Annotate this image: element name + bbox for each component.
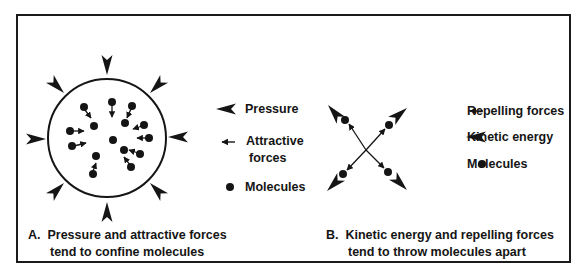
molecule-dot-icon: [145, 134, 153, 142]
legend-repelling-label: Repelling forces: [467, 104, 564, 119]
pressure-arrow-icon: [26, 134, 46, 145]
legend-molecule-dot-icon: [226, 183, 234, 191]
pressure-arrow-icon: [102, 202, 113, 222]
caption-a: A. Pressure and attractive forces tend t…: [28, 227, 227, 261]
molecules-repelled: [339, 116, 393, 178]
pressure-arrow-icon: [146, 75, 168, 97]
molecule-dot-icon: [121, 119, 129, 127]
caption-a-line1: Pressure and attractive forces: [47, 228, 226, 242]
legend-molecules-label: Molecules: [245, 180, 305, 195]
legend-attractive-label-line2: forces: [249, 151, 287, 166]
molecule-dot-icon: [80, 103, 88, 111]
molecule-dot-icon: [136, 150, 144, 158]
molecule-dot-icon: [109, 136, 117, 144]
molecule-dot-icon: [92, 152, 100, 160]
kinetic-energy-arrow-icon: [389, 172, 411, 194]
caption-b-letter: B.: [326, 228, 339, 242]
legend-attractive-label-line1: Attractive: [246, 134, 304, 149]
caption-b-line1: Kinetic energy and repelling forces: [345, 228, 553, 242]
pressure-arrow-icon: [168, 132, 188, 143]
molecule-dot-icon: [127, 163, 135, 171]
caption-b: B. Kinetic energy and repelling forces t…: [326, 227, 554, 261]
pressure-arrow-icon: [46, 75, 68, 97]
molecule-dot-icon: [108, 98, 116, 106]
molecule-dot-icon: [384, 168, 392, 176]
legend-molecules-label-b: Molecules: [467, 157, 527, 172]
caption-b-line2: tend to throw molecules apart: [326, 244, 554, 261]
pressure-arrow-icon: [46, 179, 68, 201]
repelling-force-arrows: [347, 124, 385, 170]
molecule-dot-icon: [128, 102, 136, 110]
molecule-dot-icon: [339, 170, 347, 178]
legend-pressure-label: Pressure: [245, 102, 299, 117]
molecule-dot-icon: [66, 127, 74, 135]
molecule-dot-icon: [341, 116, 349, 124]
molecule-dot-icon: [140, 121, 148, 129]
pressure-arrow-icon: [146, 179, 168, 201]
caption-a-line2: tend to confine molecules: [28, 244, 227, 261]
molecule-dot-icon: [120, 146, 128, 154]
molecule-dot-icon: [385, 121, 393, 129]
legend-pressure-arrow-icon: [216, 104, 236, 115]
legend-kinetic-label: Kinetic energy: [467, 130, 553, 145]
pressure-arrow-icon: [102, 55, 113, 75]
attractive-force-arrows: [72, 105, 147, 171]
caption-a-letter: A.: [28, 228, 41, 242]
molecule-dot-icon: [68, 142, 76, 150]
molecule-dot-icon: [90, 122, 98, 130]
molecule-dot-icon: [89, 170, 97, 178]
kinetic-energy-arrow-icon: [388, 104, 410, 125]
